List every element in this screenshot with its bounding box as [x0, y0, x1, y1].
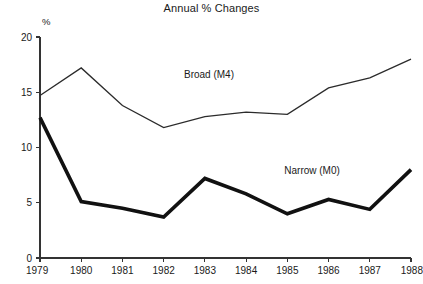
series-annotation-label: Broad (M4): [184, 69, 234, 80]
x-tick-label: 1988: [401, 265, 423, 276]
x-tick-label: 1985: [276, 265, 299, 276]
y-tick-label: 15: [21, 87, 33, 98]
x-tick-label: 1981: [111, 265, 134, 276]
series-line-narrow-m0: [40, 118, 411, 217]
chart-series-group: [40, 59, 411, 217]
series-annotation-label: Narrow (M0): [284, 165, 340, 176]
y-tick-label: 5: [26, 197, 32, 208]
x-tick-label: 1983: [194, 265, 217, 276]
chart-plot-area: 05101520 1979198019811982198319841985198…: [0, 0, 423, 284]
chart-series-labels: Broad (M4)Narrow (M0): [184, 69, 340, 176]
x-tick-label: 1984: [235, 265, 258, 276]
x-tick-label: 1979: [26, 265, 49, 276]
y-tick-label: 0: [26, 253, 32, 264]
x-tick-label: 1980: [70, 265, 93, 276]
y-tick-label: 10: [21, 142, 33, 153]
x-tick-label: 1987: [359, 265, 382, 276]
y-axis-unit-label: %: [42, 16, 51, 27]
x-tick-label: 1982: [153, 265, 176, 276]
x-tick-label: 1986: [317, 265, 340, 276]
y-axis-ticks: 05101520: [21, 32, 40, 264]
y-tick-label: 20: [21, 32, 33, 43]
chart-container: Annual % Changes 05101520 19791980198119…: [0, 0, 423, 284]
x-axis-ticks: 1979198019811982198319841985198619871988: [26, 258, 423, 276]
